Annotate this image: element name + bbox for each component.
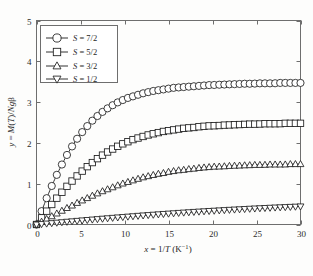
y-tick-label: 5: [27, 17, 32, 27]
data-marker: [58, 161, 65, 168]
svg-text:y = M(T)/Ngβ: y = M(T)/Ngβ: [6, 97, 16, 148]
data-marker: [297, 120, 303, 126]
y-axis-beta: β: [6, 97, 16, 102]
x-tick-label: 25: [253, 229, 263, 239]
data-marker: [49, 201, 55, 207]
data-marker: [79, 129, 86, 136]
y-tick-label: 2: [27, 139, 32, 149]
x-tick-label: 30: [297, 229, 307, 239]
legend: S = 7/2S = 5/2S = 3/2S = 1/2: [41, 26, 118, 85]
legend-label: S = 3/2: [73, 61, 97, 71]
y-tick-label: 4: [27, 57, 32, 67]
x-axis-close: ): [189, 244, 192, 254]
data-marker: [68, 143, 75, 150]
data-marker: [43, 208, 49, 214]
legend-label: S = 5/2: [73, 47, 97, 57]
brillouin-magnetization-chart: 051015202530 012345 x = 1/T (K−1) y = M(…: [0, 0, 313, 276]
data-marker: [74, 135, 81, 142]
x-tick-label: 20: [209, 229, 219, 239]
legend-marker: [53, 34, 61, 42]
y-axis-tick-labels: 012345: [27, 17, 32, 231]
x-tick-label: 0: [35, 229, 40, 239]
data-marker: [297, 161, 304, 167]
legend-marker: [53, 48, 60, 55]
x-axis-exponent: −1: [182, 243, 189, 250]
y-tick-label: 1: [27, 180, 32, 190]
data-series-group: [33, 79, 304, 228]
y-axis-denom: Ng: [6, 101, 16, 113]
y-tick-label: 3: [27, 98, 32, 108]
data-marker: [297, 79, 304, 86]
x-axis-eq: = 1/: [148, 244, 165, 254]
y-axis-eq: =: [6, 133, 16, 143]
x-axis-unit: (K: [170, 244, 182, 254]
legend-label: S = 7/2: [73, 33, 97, 43]
y-tick-label: 0: [27, 221, 32, 231]
x-axis-tick-labels: 051015202530: [35, 229, 306, 239]
svg-text:x = 1/T (K−1): x = 1/T (K−1): [143, 243, 191, 254]
data-marker: [63, 151, 70, 158]
data-marker: [43, 195, 50, 202]
data-marker: [53, 171, 60, 178]
data-marker: [54, 195, 60, 201]
x-axis-title: x = 1/T (K−1): [143, 243, 191, 254]
legend-label: S = 1/2: [73, 74, 97, 84]
y-axis-title: y = M(T)/Ngβ: [6, 97, 16, 148]
x-tick-label: 10: [121, 229, 131, 239]
x-tick-label: 15: [165, 229, 175, 239]
x-tick-label: 5: [79, 229, 84, 239]
chart-canvas: 051015202530 012345 x = 1/T (K−1) y = M(…: [0, 0, 313, 276]
data-marker: [48, 182, 55, 189]
data-marker: [59, 189, 65, 195]
